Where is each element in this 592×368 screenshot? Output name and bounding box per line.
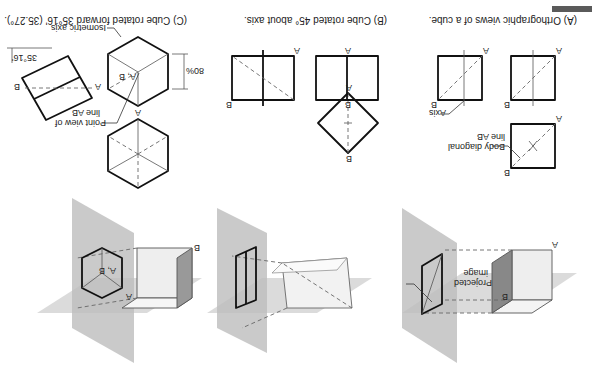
label-line-ab: line AB	[477, 132, 505, 142]
caption-panel-b: (B) Cube rotated 45° about axis.	[244, 15, 387, 26]
panel-c-pictorial	[37, 198, 202, 363]
panel-b-pictorial	[207, 208, 372, 353]
label-b-rect1: B	[345, 100, 351, 110]
label-point-view: Point view of	[55, 118, 106, 128]
label-a-rect1: A	[345, 46, 351, 56]
label-ab: A, B	[119, 72, 136, 82]
label-a-rect2: A	[294, 46, 300, 56]
label-b-3: B	[431, 100, 437, 110]
panel-b-ortho	[232, 50, 378, 153]
label-b-1: B	[504, 168, 510, 178]
label-80-percent: 80%	[186, 66, 204, 76]
label-point-view-line: line AB	[72, 108, 100, 118]
label-projected: Projected	[454, 278, 492, 288]
label-a-2: A	[556, 46, 562, 56]
label-a-diamond: A	[346, 83, 352, 93]
label-a-pict-c: A	[126, 292, 132, 302]
label-angle: 35°16'	[12, 53, 37, 63]
caption-panel-a: (A) Orthographic views of a cube.	[429, 15, 577, 26]
label-a-rot: A	[95, 82, 101, 92]
label-b-rect2: B	[226, 100, 232, 110]
figure-stage: (A) Orthographic views of a cube. (B) Cu…	[0, 0, 592, 368]
label-ab-pict-c: A, B	[99, 266, 116, 276]
label-b-pict-c: B	[194, 243, 200, 253]
label-image: image	[463, 268, 488, 278]
label-b-pict: B	[502, 292, 508, 302]
label-a-pict: A	[552, 240, 558, 250]
label-b-2: B	[504, 100, 510, 110]
label-a-3: A	[483, 46, 489, 56]
label-b-diamond: B	[346, 154, 352, 164]
label-a-1: A	[556, 114, 562, 124]
corner-bar	[552, 6, 592, 12]
label-a-hex: A	[135, 108, 141, 118]
label-body-diagonal: Body diagonal	[448, 142, 505, 152]
label-b-rot: B	[14, 82, 20, 92]
label-isometric-axis: Isometric axis	[51, 23, 106, 33]
